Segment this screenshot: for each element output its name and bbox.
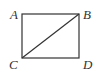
point-label-a: A — [9, 7, 18, 22]
point-label-b: B — [83, 7, 91, 22]
rectangle-diagram: A B C D — [0, 0, 104, 72]
diagonal-cb — [22, 14, 79, 58]
point-label-c: C — [9, 57, 18, 72]
point-label-d: D — [82, 57, 93, 72]
